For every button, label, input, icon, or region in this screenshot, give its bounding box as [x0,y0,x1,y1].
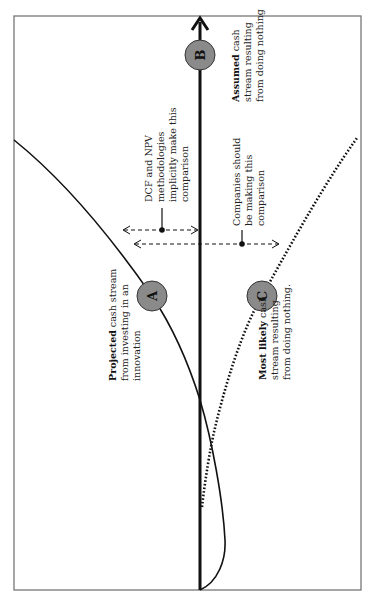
svg-text:methodologies: methodologies [155,131,166,202]
svg-text:be making this: be making this [243,155,254,226]
marker-b: B [185,40,215,70]
svg-text:Most likely cash: Most likely cash [257,296,268,380]
companies-comparison-arrow [134,230,279,248]
svg-text:stream resulting: stream resulting [269,300,280,380]
marker-a-label: A [145,290,160,302]
marker-b-label: B [193,50,208,61]
svg-text:innovation: innovation [131,330,142,381]
svg-text:Assumed cash: Assumed cash [230,29,241,103]
diagram-frame [14,16,361,590]
svg-text:implicitly make this: implicitly make this [167,107,178,202]
assumed-label: Assumed cash stream resulting from doing… [230,9,265,103]
svg-text:from doing nothing.: from doing nothing. [281,284,292,380]
svg-text:from doing nothing: from doing nothing [254,9,265,102]
companies-should-label: Companies should be making this comparis… [231,138,266,226]
svg-text:stream resulting: stream resulting [242,22,253,102]
svg-text:Companies should: Companies should [231,138,242,226]
svg-text:Projected cash stream: Projected cash stream [107,269,118,381]
svg-text:DCF and NPV: DCF and NPV [143,135,154,202]
svg-text:comparison: comparison [179,146,190,202]
dcf-npv-label: DCF and NPV methodologies implicitly mak… [143,107,190,202]
projected-label: Projected cash stream from investing in … [107,269,142,381]
svg-text:comparison: comparison [255,170,266,226]
marker-a: A [137,281,167,311]
dcf-comparison-arrow [123,208,198,234]
cash-stream-diagram: B A C Assumed cash stream resulting from… [0,0,369,605]
svg-text:from investing in an: from investing in an [119,284,130,381]
